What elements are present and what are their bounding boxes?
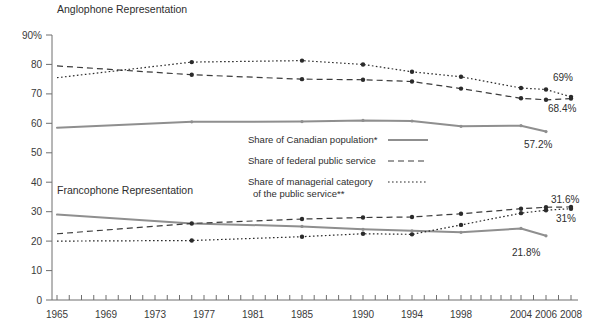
x-tick-label: 2008 [560,309,583,320]
endpoint-label-federal-francophone: 31.6% [551,194,579,205]
x-tick-label: 1969 [95,309,118,320]
series-line-anglophone-representation-share-of-managerial-category-of-the-public-service [57,61,571,97]
data-point [300,58,304,62]
endpoint-label-population-anglophone: 57.2% [524,139,552,150]
data-point [519,86,523,90]
data-point [361,228,364,231]
data-point [544,87,548,91]
y-axis-tick-labels: 90% 80 70 60 50 40 30 20 10 0 [22,30,42,306]
x-axis-ticks [57,295,571,300]
y-tick-label: 10 [31,265,43,276]
data-point [519,227,522,230]
x-tick-label: 1981 [242,309,265,320]
data-point [300,225,303,228]
y-tick-label: 80 [31,59,43,70]
data-point [410,215,414,219]
line-chart-svg: 90% 80 70 60 50 40 30 20 10 0 1965 1969 … [0,0,590,336]
endpoint-label-managerial-anglophone: 69% [553,72,573,83]
endpoint-label-federal-anglophone: 68.4% [548,103,576,114]
data-point [410,229,413,232]
series-layer [57,58,573,242]
legend-label-population: Share of Canadian population* [248,134,378,145]
y-tick-label: 70 [31,88,43,99]
data-point [544,98,548,102]
y-axis-ticks [46,35,52,300]
x-tick-label: 1965 [46,309,69,320]
data-point [361,78,365,82]
data-point [410,79,414,83]
data-point [519,207,523,211]
legend-label-federal: Share of federal public service [248,155,376,166]
x-tick-label: 1990 [352,309,375,320]
legend: Share of Canadian population* Share of f… [248,134,428,199]
data-point [300,234,304,238]
x-tick-label: 1977 [193,309,216,320]
data-point [569,207,573,211]
legend-label-managerial-line2: of the public service** [253,188,345,199]
data-point [519,96,523,100]
data-point [410,232,414,236]
data-point [190,120,193,123]
data-point [544,208,548,212]
data-point [300,217,304,221]
x-axis-tick-labels: 1965 1969 1973 1977 1981 1985 1990 1994 … [46,309,583,320]
data-point [459,86,463,90]
chart-container: 90% 80 70 60 50 40 30 20 10 0 1965 1969 … [0,0,590,336]
data-point [519,211,523,215]
data-point [459,231,462,234]
series-line-anglophone-representation-share-of-federal-public-service [57,66,571,100]
data-point [410,70,414,74]
x-tick-label: 1985 [291,309,314,320]
y-tick-label: 30 [31,206,43,217]
data-point [459,75,463,79]
y-tick-label: 0 [36,295,42,306]
data-point [544,130,547,133]
y-tick-label: 40 [31,177,43,188]
x-tick-label: 1998 [450,309,473,320]
data-point [410,119,413,122]
data-point [361,62,365,66]
endpoint-label-population-francophone: 21.8% [512,247,540,258]
data-point [459,125,462,128]
data-point [459,223,463,227]
data-point [190,221,194,225]
y-tick-label: 90% [22,30,42,41]
data-point [544,234,547,237]
francophone-group-title: Francophone Representation [57,184,193,196]
x-tick-label: 2004 [510,309,533,320]
data-point [569,95,573,99]
data-point [361,232,365,236]
series-line-francophone-representation-share-of-managerial-category-of-the-public-service [57,209,571,241]
data-point [361,119,364,122]
data-point [300,77,304,81]
data-point [459,212,463,216]
legend-label-managerial-line1: Share of managerial category [248,176,373,187]
y-tick-label: 20 [31,236,43,247]
x-tick-label: 1994 [401,309,424,320]
x-tick-label: 1973 [144,309,167,320]
x-tick-label: 2006 [535,309,558,320]
y-tick-label: 50 [31,147,43,158]
data-point [300,120,303,123]
data-point [361,215,365,219]
data-point [190,60,194,64]
anglophone-group-title: Anglophone Representation [57,3,187,15]
y-tick-label: 60 [31,118,43,129]
data-point [190,238,194,242]
data-point [519,124,522,127]
data-point [190,73,194,77]
endpoint-label-managerial-francophone: 31% [556,213,576,224]
